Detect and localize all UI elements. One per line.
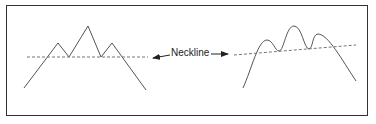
left-price-line xyxy=(24,26,146,90)
neckline-label: Neckline xyxy=(171,47,209,58)
head-and-shoulders-diagram xyxy=(0,0,376,124)
right-price-line xyxy=(243,26,356,88)
left-arrow-icon xyxy=(153,55,170,58)
